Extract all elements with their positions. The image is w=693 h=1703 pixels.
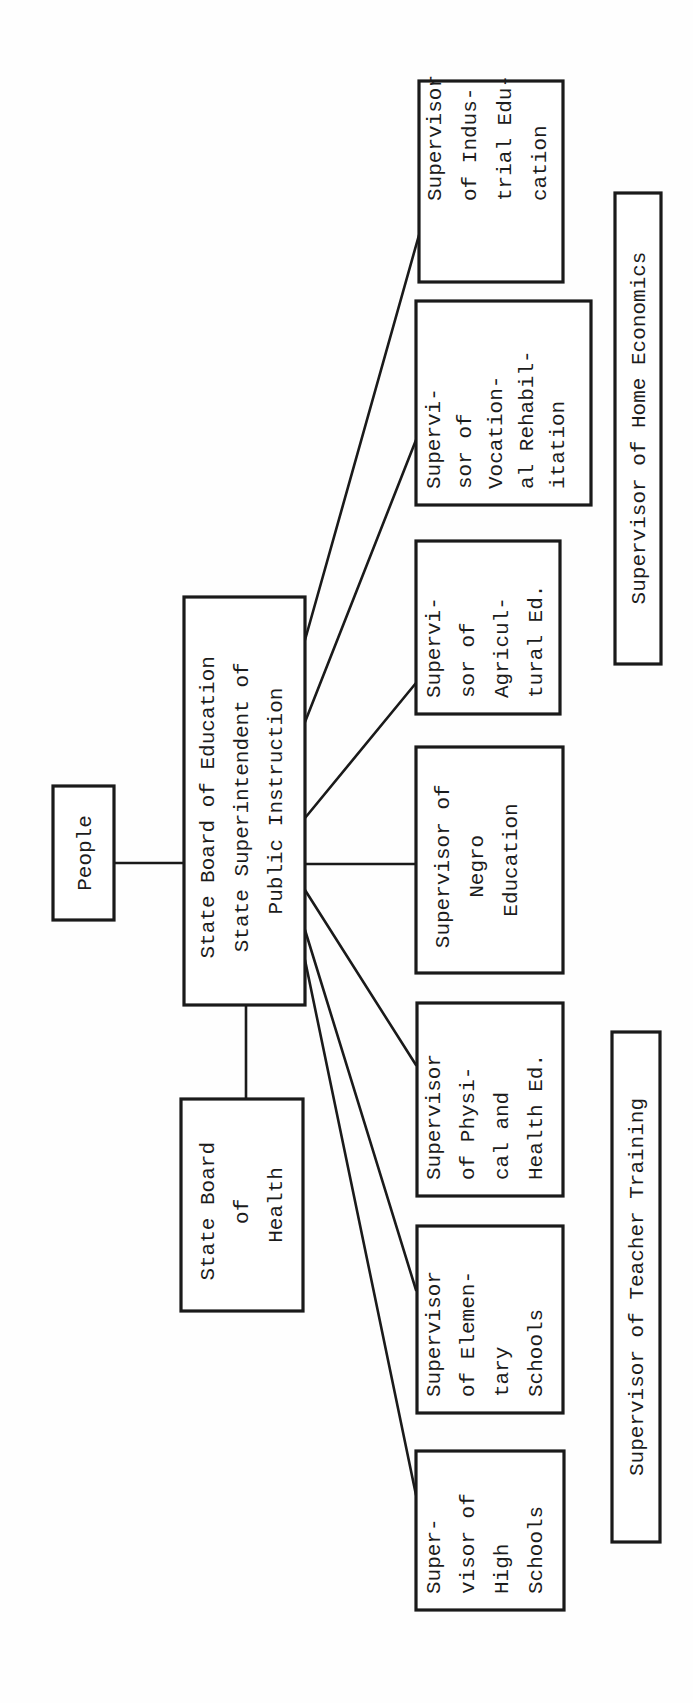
industrial-line-1: Supervisor bbox=[424, 75, 447, 201]
svg-text:Supervisor of Teacher Training: Supervisor of Teacher Training bbox=[626, 1098, 649, 1476]
node-supervisor-physical-health-education: Supervisor of Physi- cal and Health Ed. bbox=[417, 1003, 563, 1196]
high-line-1: Super- bbox=[423, 1518, 446, 1594]
node-state-board-of-education: State Board of Education State Superinte… bbox=[184, 597, 305, 1005]
svg-text:People: People bbox=[74, 815, 97, 891]
vocational-line-2: sor of bbox=[454, 413, 477, 489]
node-supervisor-elementary-schools: Supervisor of Elemen- tary Schools bbox=[417, 1226, 563, 1413]
physical-line-2: of Physi- bbox=[457, 1067, 480, 1180]
teacher-training-label: Supervisor of Teacher Training bbox=[626, 1098, 649, 1476]
node-people: People bbox=[53, 786, 114, 920]
vocational-line-5: itation bbox=[547, 401, 570, 489]
node-supervisor-high-schools: Super- visor of High Schools bbox=[416, 1451, 564, 1610]
node-supervisor-vocational-rehabilitation: Supervi- sor of Vocation- al Rehabil- it… bbox=[416, 301, 591, 505]
agricultural-line-2: sor of bbox=[457, 622, 480, 698]
high-line-4: Schools bbox=[525, 1506, 548, 1594]
negro-line-1: Supervisor of bbox=[432, 784, 455, 948]
org-chart: People State Board of Education State Su… bbox=[0, 0, 693, 1703]
physical-line-1: Supervisor bbox=[423, 1054, 446, 1180]
industrial-line-2: of Indus- bbox=[459, 88, 482, 201]
home-economics-label: Supervisor of Home Economics bbox=[628, 252, 651, 605]
vocational-line-1: Supervi- bbox=[423, 388, 446, 489]
industrial-line-3: trial Edu- bbox=[494, 75, 517, 201]
vocational-line-4: al Rehabil- bbox=[516, 350, 539, 489]
physical-line-4: Health Ed. bbox=[525, 1054, 548, 1180]
central-line-3: Public Instruction bbox=[265, 688, 288, 915]
negro-line-2: Negro bbox=[466, 835, 489, 898]
node-supervisor-industrial-education: Supervisor of Indus- trial Edu- cation bbox=[419, 62, 563, 282]
elementary-line-2: of Elemen- bbox=[457, 1271, 480, 1397]
elementary-line-1: Supervisor bbox=[423, 1271, 446, 1397]
elementary-line-3: tary bbox=[491, 1347, 514, 1397]
svg-text:State Board of Education: State Board of Education State Superinte… bbox=[197, 643, 288, 958]
people-label: People bbox=[74, 815, 97, 891]
physical-line-3: cal and bbox=[491, 1092, 514, 1180]
health-line-1: State Board bbox=[197, 1142, 220, 1281]
svg-text:Supervisor of Home Economics: Supervisor of Home Economics bbox=[628, 252, 651, 605]
industrial-line-4: cation bbox=[529, 125, 552, 201]
agricultural-line-3: Agricul- bbox=[491, 597, 514, 698]
node-supervisor-negro-education: Supervisor of Negro Education bbox=[416, 747, 563, 973]
agricultural-line-1: Supervi- bbox=[423, 597, 446, 698]
node-supervisor-agricultural-education: Supervi- sor of Agricul- tural Ed. bbox=[416, 541, 560, 714]
node-supervisor-home-economics: Supervisor of Home Economics bbox=[615, 193, 661, 664]
central-line-1: State Board of Education bbox=[197, 656, 220, 958]
negro-line-3: Education bbox=[500, 803, 523, 916]
node-supervisor-teacher-training: Supervisor of Teacher Training bbox=[612, 1032, 660, 1542]
agricultural-line-4: tural Ed. bbox=[525, 585, 548, 698]
health-line-3: Health bbox=[265, 1167, 288, 1243]
elementary-line-4: Schools bbox=[525, 1309, 548, 1397]
edge-central-elementary bbox=[305, 930, 416, 1290]
high-line-3: High bbox=[491, 1544, 514, 1594]
health-line-2: of bbox=[231, 1199, 254, 1224]
central-line-2: State Superintendent of bbox=[231, 662, 254, 952]
edge-central-agricultural bbox=[305, 683, 416, 818]
node-state-board-of-health: State Board of Health bbox=[181, 1099, 303, 1311]
document-page: People State Board of Education State Su… bbox=[0, 0, 693, 1703]
high-line-2: visor of bbox=[457, 1493, 480, 1594]
vocational-line-3: Vocation- bbox=[485, 376, 508, 489]
